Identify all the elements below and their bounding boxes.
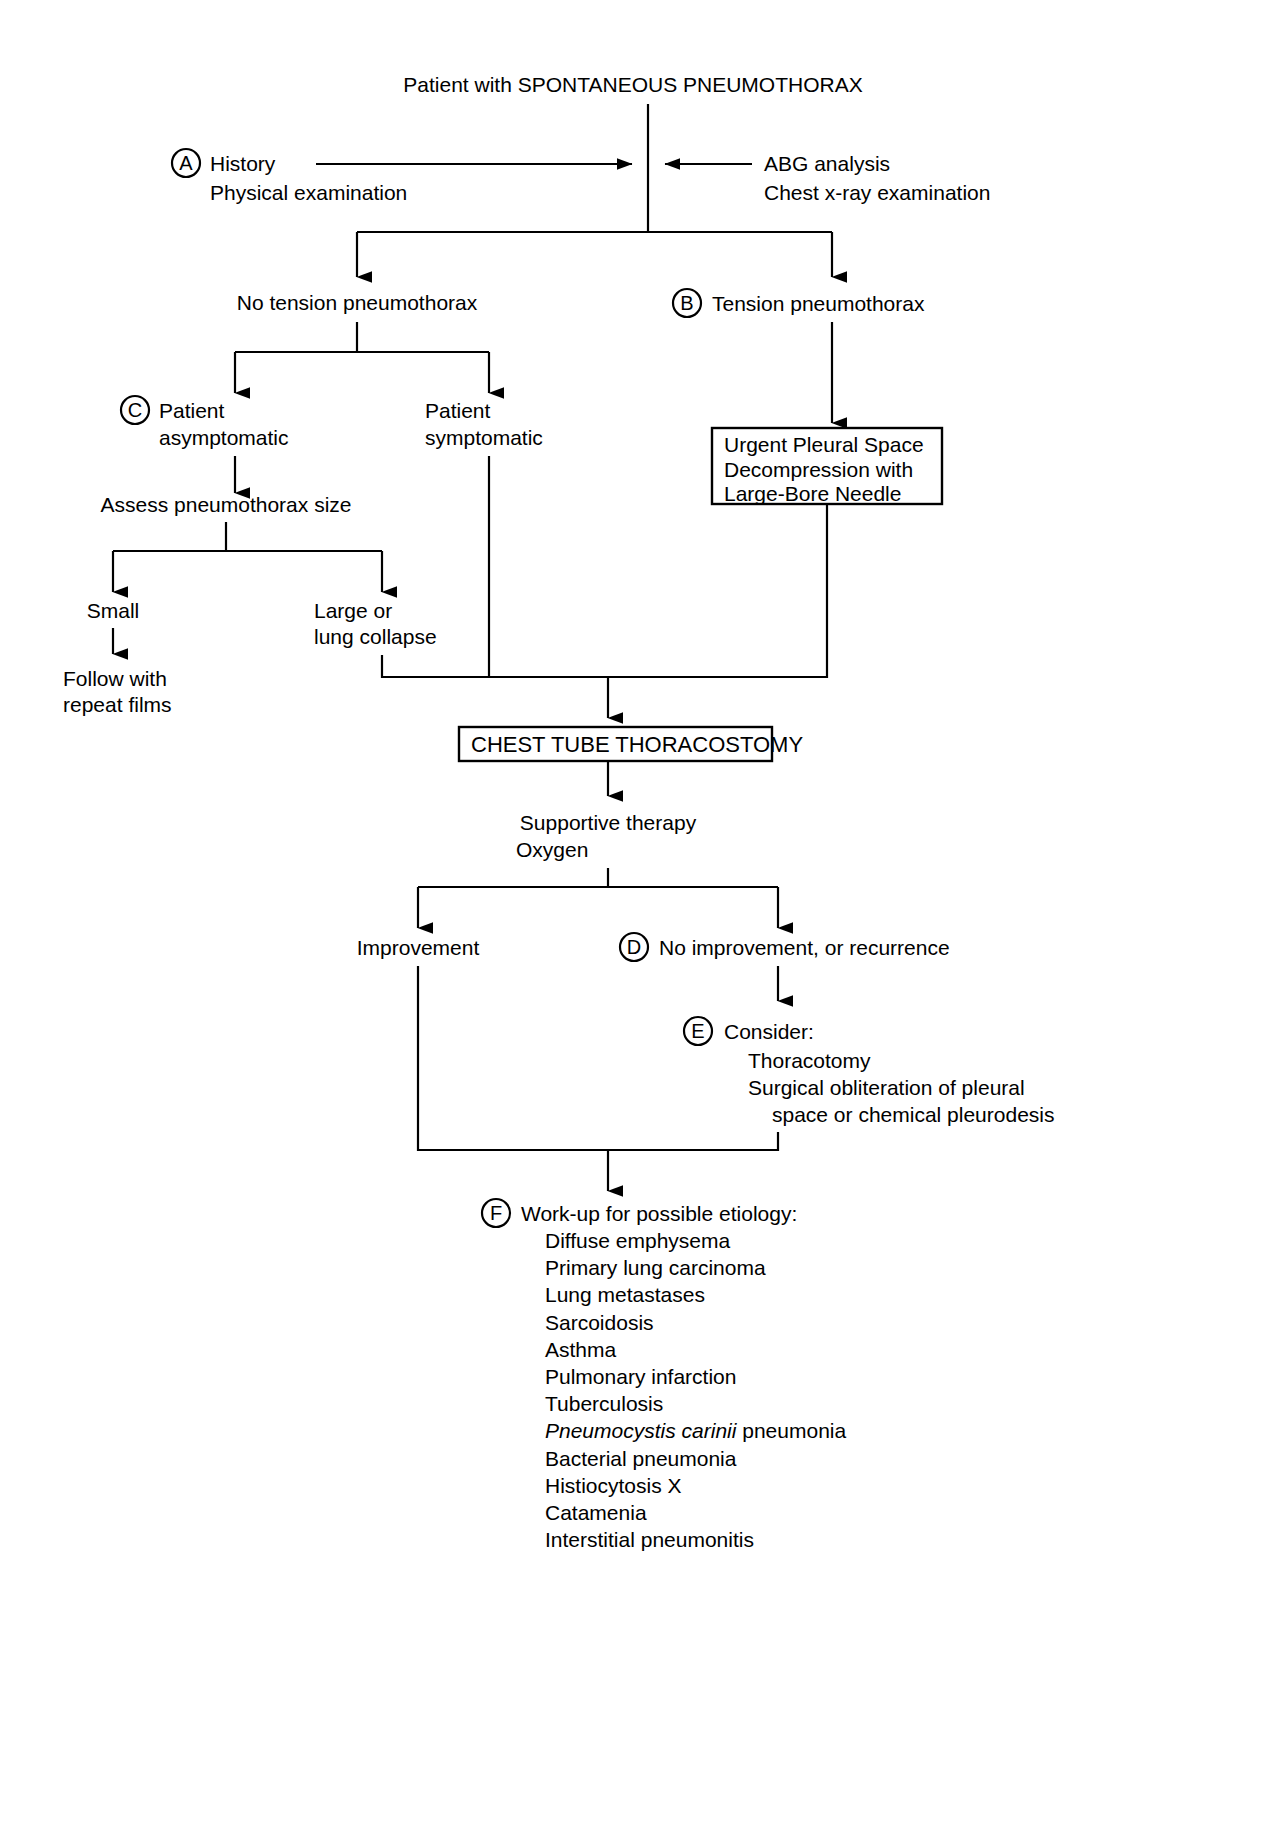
node-patient-symptomatic-line2: symptomatic bbox=[425, 426, 543, 449]
node-supportive-therapy: Supportive therapy bbox=[520, 811, 697, 834]
etiology-item-text: Sarcoidosis bbox=[545, 1311, 654, 1334]
key-letter-d: D bbox=[627, 936, 641, 958]
etiology-item-text: Catamenia bbox=[545, 1501, 647, 1524]
key-letter-c: C bbox=[128, 399, 142, 421]
etiology-item-text: Diffuse emphysema bbox=[545, 1229, 731, 1252]
key-letter-a: A bbox=[179, 152, 193, 174]
node-consider-surgical-oblit-line1: Surgical obliteration of pleural bbox=[748, 1076, 1025, 1099]
box-urgent-line1: Urgent Pleural Space bbox=[724, 433, 924, 456]
box-chest-tube-label: CHEST TUBE THORACOSTOMY bbox=[471, 732, 803, 757]
key-letter-b: B bbox=[680, 292, 693, 314]
page-background bbox=[0, 0, 1269, 1839]
etiology-item-text: Bacterial pneumonia bbox=[545, 1447, 737, 1470]
node-tension-pneumothorax: Tension pneumothorax bbox=[712, 292, 925, 315]
etiology-item-text: Lung metastases bbox=[545, 1283, 705, 1306]
box-urgent-line3: Large-Bore Needle bbox=[724, 482, 901, 505]
node-large-line1: Large or bbox=[314, 599, 392, 622]
node-patient-asymptomatic-line1: Patient bbox=[159, 399, 225, 422]
node-large-line2: lung collapse bbox=[314, 625, 437, 648]
node-consider-surgical-oblit-line2: space or chemical pleurodesis bbox=[772, 1103, 1054, 1126]
node-consider-thoracotomy: Thoracotomy bbox=[748, 1049, 871, 1072]
etiology-item-text: Pulmonary infarction bbox=[545, 1365, 736, 1388]
node-abg-analysis-label: ABG analysis bbox=[764, 152, 890, 175]
etiology-item: Interstitial pneumonitis bbox=[545, 1528, 754, 1551]
node-patient-asymptomatic-line2: asymptomatic bbox=[159, 426, 289, 449]
node-small: Small bbox=[87, 599, 140, 622]
etiology-item-text: Asthma bbox=[545, 1338, 617, 1361]
node-no-tension-pneumothorax: No tension pneumothorax bbox=[237, 291, 478, 314]
node-chest-xray-label: Chest x-ray examination bbox=[764, 181, 990, 204]
etiology-item: Pulmonary infarction bbox=[545, 1365, 736, 1388]
box-urgent-line2: Decompression with bbox=[724, 458, 913, 481]
etiology-item: Sarcoidosis bbox=[545, 1311, 654, 1334]
etiology-item-italic: Pneumocystis carinii bbox=[545, 1419, 738, 1442]
etiology-item: Bacterial pneumonia bbox=[545, 1447, 737, 1470]
node-oxygen: Oxygen bbox=[516, 838, 588, 861]
etiology-item-text: pneumonia bbox=[736, 1419, 846, 1442]
etiology-item: Diffuse emphysema bbox=[545, 1229, 731, 1252]
etiology-item-text: Histiocytosis X bbox=[545, 1474, 682, 1497]
diagram-title: Patient with SPONTANEOUS PNEUMOTHORAX bbox=[403, 73, 862, 96]
node-follow-line1: Follow with bbox=[63, 667, 167, 690]
etiology-item: Primary lung carcinoma bbox=[545, 1256, 766, 1279]
node-no-improvement: No improvement, or recurrence bbox=[659, 936, 950, 959]
key-letter-f: F bbox=[490, 1202, 502, 1224]
node-assess-size: Assess pneumothorax size bbox=[101, 493, 352, 516]
etiology-item-text: Tuberculosis bbox=[545, 1392, 663, 1415]
key-letter-e: E bbox=[691, 1020, 704, 1042]
etiology-item: Lung metastases bbox=[545, 1283, 705, 1306]
node-workup-heading: Work-up for possible etiology: bbox=[521, 1202, 797, 1225]
etiology-item: Histiocytosis X bbox=[545, 1474, 682, 1497]
node-patient-symptomatic-line1: Patient bbox=[425, 399, 491, 422]
etiology-item: Pneumocystis carinii pneumonia bbox=[545, 1419, 846, 1442]
node-physical-exam-label: Physical examination bbox=[210, 181, 407, 204]
etiology-item: Catamenia bbox=[545, 1501, 647, 1524]
etiology-item-text: Primary lung carcinoma bbox=[545, 1256, 766, 1279]
etiology-item: Asthma bbox=[545, 1338, 617, 1361]
node-improvement: Improvement bbox=[357, 936, 480, 959]
node-consider-heading: Consider: bbox=[724, 1020, 814, 1043]
pneumothorax-algorithm-diagram: Patient with SPONTANEOUS PNEUMOTHORAX A … bbox=[0, 0, 1269, 1839]
etiology-item-text: Interstitial pneumonitis bbox=[545, 1528, 754, 1551]
node-history-label: History bbox=[210, 152, 276, 175]
etiology-item: Tuberculosis bbox=[545, 1392, 663, 1415]
node-follow-line2: repeat films bbox=[63, 693, 172, 716]
